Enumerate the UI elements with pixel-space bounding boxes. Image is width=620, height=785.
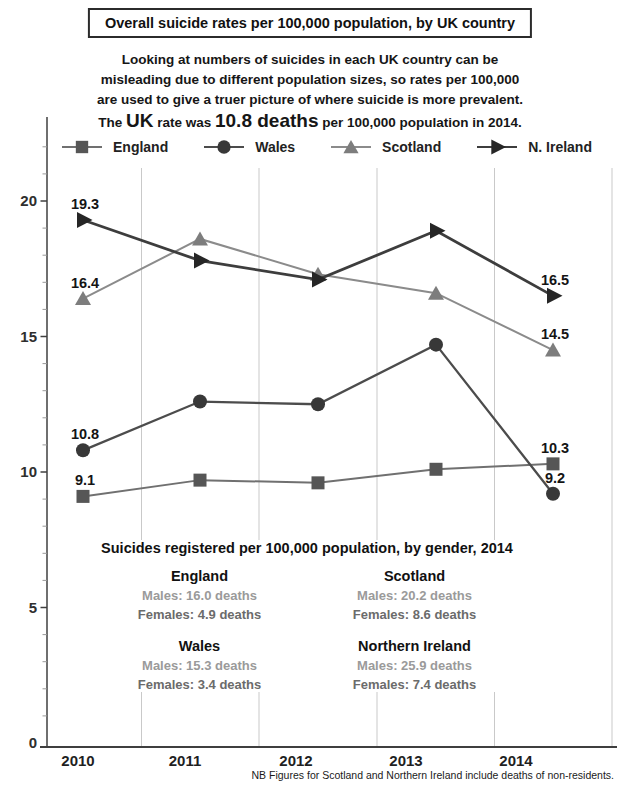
footnote: NB Figures for Scotland and Northern Ire… — [252, 769, 614, 781]
gender-stats-grid: England Males: 16.0 deaths Females: 4.9 … — [95, 568, 519, 692]
females-rate: Females: 8.6 deaths — [310, 607, 519, 622]
country-name: Northern Ireland — [310, 638, 519, 654]
data-point-label: 16.5 — [541, 272, 569, 288]
females-rate: Females: 3.4 deaths — [95, 677, 304, 692]
y-tick-label: 5 — [29, 599, 37, 616]
chart-title: Overall suicide rates per 100,000 popula… — [88, 8, 532, 38]
intro-line-3: are used to give a truer picture of wher… — [0, 90, 620, 110]
gender-stats-northern-ireland: Northern Ireland Males: 25.9 deaths Fema… — [310, 638, 519, 692]
series-n-ireland — [77, 212, 563, 304]
y-tick-label: 20 — [20, 192, 37, 209]
males-rate: Males: 15.3 deaths — [95, 658, 304, 673]
data-point-label: 14.5 — [541, 326, 569, 342]
series-wales — [76, 338, 560, 501]
series-england — [77, 457, 560, 503]
males-rate: Males: 20.2 deaths — [310, 588, 519, 603]
gender-stats-england: England Males: 16.0 deaths Females: 4.9 … — [95, 568, 304, 622]
x-axis-labels: 20102011201220132014 — [61, 752, 533, 769]
data-point-label: 10.8 — [71, 426, 99, 442]
females-rate: Females: 7.4 deaths — [310, 677, 519, 692]
year-label: 2014 — [499, 752, 533, 769]
data-point-label: 16.4 — [71, 275, 99, 291]
gender-stats-wales: Wales Males: 15.3 deaths Females: 3.4 de… — [95, 638, 304, 692]
infographic: Overall suicide rates per 100,000 popula… — [0, 0, 620, 785]
data-point-label: 9.2 — [545, 470, 565, 486]
country-name: England — [95, 568, 304, 584]
year-label: 2012 — [279, 752, 312, 769]
intro-line-2: misleading due to different population s… — [0, 70, 620, 90]
females-rate: Females: 4.9 deaths — [95, 607, 304, 622]
gender-stats-heading: Suicides registered per 100,000 populati… — [95, 540, 519, 556]
intro-line-1: Looking at numbers of suicides in each U… — [0, 50, 620, 70]
gender-stats-scotland: Scotland Males: 20.2 deaths Females: 8.6… — [310, 568, 519, 622]
series-scotland — [75, 231, 561, 356]
data-point-label: 19.3 — [71, 196, 99, 212]
y-tick-label: 0 — [29, 734, 37, 751]
country-name: Wales — [95, 638, 304, 654]
data-point-label: 10.3 — [541, 440, 569, 456]
country-name: Scotland — [310, 568, 519, 584]
males-rate: Males: 16.0 deaths — [95, 588, 304, 603]
gender-stats-panel: Suicides registered per 100,000 populati… — [95, 540, 519, 692]
y-tick-label: 15 — [20, 328, 37, 345]
males-rate: Males: 25.9 deaths — [310, 658, 519, 673]
data-point-label: 9.1 — [75, 472, 95, 488]
year-label: 2011 — [169, 752, 202, 769]
y-tick-label: 10 — [20, 463, 37, 480]
year-label: 2010 — [61, 752, 94, 769]
year-label: 2013 — [389, 752, 422, 769]
